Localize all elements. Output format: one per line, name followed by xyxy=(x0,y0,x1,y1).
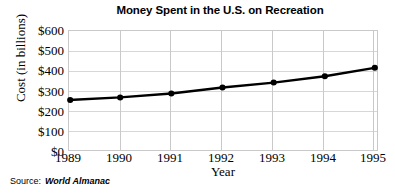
x-tick-label-1995: 1995 xyxy=(343,151,395,165)
series-polyline xyxy=(69,68,376,100)
chart-title: Money Spent in the U.S. on Recreation xyxy=(60,4,380,16)
y-tick-label-200: $200 xyxy=(20,105,64,118)
data-point-1993 xyxy=(271,80,277,86)
y-tick-label-500: $500 xyxy=(20,44,64,57)
y-tick-label-100: $100 xyxy=(20,125,64,138)
data-point-1989 xyxy=(67,97,73,103)
data-point-1990 xyxy=(117,94,123,100)
data-series-line xyxy=(69,31,377,150)
data-point-1992 xyxy=(219,84,225,90)
source-name: World Almanac xyxy=(45,176,110,186)
source-label: Source: xyxy=(10,176,41,186)
plot-area xyxy=(68,30,378,151)
data-point-1995 xyxy=(372,65,378,71)
y-tick-label-300: $300 xyxy=(20,85,64,98)
y-tick-label-600: $600 xyxy=(20,24,64,37)
data-point-1994 xyxy=(322,73,328,79)
y-tick-label-400: $400 xyxy=(20,64,64,77)
x-axis-title: Year xyxy=(68,164,378,180)
data-point-1991 xyxy=(168,90,174,96)
source-note: Source:World Almanac xyxy=(10,176,110,186)
chart-figure: Money Spent in the U.S. on Recreation Co… xyxy=(0,0,395,193)
